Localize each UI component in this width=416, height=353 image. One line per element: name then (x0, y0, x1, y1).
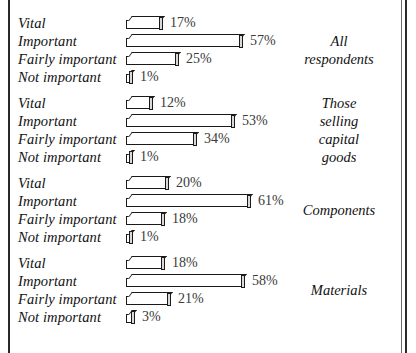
bar-3d (126, 278, 242, 287)
chart-bar-row: Vital20% (18, 174, 396, 192)
bar-wrapper (126, 52, 176, 66)
bar-3d (126, 74, 130, 83)
bar-value-label: 12% (160, 96, 186, 110)
chart-bar-row: Not important3% (18, 308, 396, 326)
bar-3d (126, 216, 162, 225)
bar-value-label: 17% (170, 16, 196, 30)
bar-3d (126, 314, 132, 323)
bar-track: 3% (126, 308, 396, 326)
group-caption-line: capital (280, 130, 398, 148)
group-caption: Materials (280, 281, 398, 299)
category-label: Fairly important (18, 212, 126, 227)
chart-plot-area: Vital17%Important57%Fairly important25%N… (18, 14, 396, 337)
right-border-rule-thin (401, 0, 402, 353)
category-label: Important (18, 194, 126, 209)
bar-value-label: 18% (172, 212, 198, 226)
bar-value-label: 57% (250, 34, 276, 48)
category-label: Vital (18, 256, 126, 271)
bar-track: 1% (126, 68, 396, 86)
right-border-rule-thick (405, 0, 407, 353)
bar-track: 20% (126, 174, 396, 192)
bar-wrapper (126, 274, 242, 288)
bar-value-label: 25% (186, 52, 212, 66)
bar-3d (126, 260, 162, 269)
bar-track: 18% (126, 254, 396, 272)
bar-3d (126, 136, 194, 145)
bar-value-label: 58% (252, 274, 278, 288)
bar-value-label: 1% (140, 150, 159, 164)
group-caption-line: selling (280, 112, 398, 130)
bar-value-label: 34% (204, 132, 230, 146)
bar-wrapper (126, 256, 162, 270)
bar-3d (126, 296, 168, 305)
bar-3d (126, 180, 166, 189)
bar-wrapper (126, 150, 130, 164)
group-caption-line: Components (280, 201, 398, 219)
bar-3d (126, 56, 176, 65)
bar-wrapper (126, 292, 168, 306)
bar-3d (126, 198, 248, 207)
chart-bar-row: Not important1% (18, 68, 396, 86)
category-label: Vital (18, 16, 126, 31)
bar-3d (126, 38, 240, 47)
category-label: Important (18, 114, 126, 129)
category-label: Not important (18, 310, 126, 325)
bar-3d (126, 100, 150, 109)
bar-value-label: 1% (140, 70, 159, 84)
bar-wrapper (126, 194, 248, 208)
group-caption-line: respondents (280, 50, 398, 68)
category-label: Vital (18, 176, 126, 191)
left-border-rule (8, 0, 10, 353)
category-label: Not important (18, 230, 126, 245)
category-label: Not important (18, 70, 126, 85)
group-caption: Thosesellingcapitalgoods (280, 94, 398, 166)
bar-track: 1% (126, 228, 396, 246)
chart-group: Vital18%Important58%Fairly important21%N… (18, 254, 396, 326)
bar-value-label: 18% (172, 256, 198, 270)
chart-bar-row: Vital18% (18, 254, 396, 272)
category-label: Important (18, 34, 126, 49)
chart-container: Vital17%Important57%Fairly important25%N… (0, 0, 416, 353)
group-caption-line: goods (280, 148, 398, 166)
bar-3d (126, 118, 232, 127)
chart-group: Vital20%Important61%Fairly important18%N… (18, 174, 396, 246)
bar-track: 17% (126, 14, 396, 32)
bar-wrapper (126, 176, 166, 190)
group-caption: Components (280, 201, 398, 219)
bar-wrapper (126, 310, 132, 324)
bar-3d (126, 154, 130, 163)
bar-wrapper (126, 34, 240, 48)
bar-wrapper (126, 16, 160, 30)
bar-wrapper (126, 114, 232, 128)
chart-bar-row: Vital17% (18, 14, 396, 32)
bar-value-label: 3% (142, 310, 161, 324)
group-caption-line: Those (280, 94, 398, 112)
category-label: Important (18, 274, 126, 289)
group-caption-line: All (280, 32, 398, 50)
bar-value-label: 20% (176, 176, 202, 190)
bar-wrapper (126, 230, 130, 244)
chart-group: Vital12%Important53%Fairly important34%N… (18, 94, 396, 166)
group-caption-line: Materials (280, 281, 398, 299)
category-label: Vital (18, 96, 126, 111)
category-label: Not important (18, 150, 126, 165)
bar-wrapper (126, 212, 162, 226)
chart-group: Vital17%Important57%Fairly important25%N… (18, 14, 396, 86)
bar-3d (126, 20, 160, 29)
bar-value-label: 21% (178, 292, 204, 306)
chart-bar-row: Not important1% (18, 228, 396, 246)
category-label: Fairly important (18, 132, 126, 147)
bar-value-label: 53% (242, 114, 268, 128)
bar-wrapper (126, 96, 150, 110)
group-caption: Allrespondents (280, 32, 398, 68)
category-label: Fairly important (18, 292, 126, 307)
bar-wrapper (126, 70, 130, 84)
bar-value-label: 1% (140, 230, 159, 244)
bar-3d (126, 234, 130, 243)
bar-wrapper (126, 132, 194, 146)
category-label: Fairly important (18, 52, 126, 67)
